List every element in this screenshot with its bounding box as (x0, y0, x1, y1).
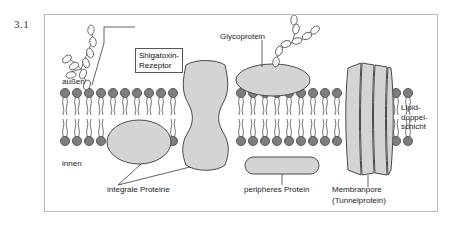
leader-integral-proteins (118, 164, 190, 185)
label-membrane-pore: Membranpore (332, 185, 382, 195)
label-peripheral-protein: peripheres Protein (244, 185, 309, 195)
diagram-frame: Shigatoxin- Rezeptor außen innen Glycopr… (44, 14, 438, 212)
integral-protein-ellipse (107, 120, 171, 164)
glycoprotein-sugar-chain (272, 15, 321, 67)
peripheral-protein-pill (245, 157, 319, 174)
leader-receptor (92, 27, 135, 85)
label-glycoprotein: Glycoprotein (220, 32, 265, 42)
shigatoxin-receptor-label: Shigatoxin- Rezeptor (135, 48, 183, 73)
label-integral-proteins: integrale Proteine (107, 185, 170, 195)
label-inside: innen (62, 159, 82, 169)
figure-container: 3.1 (0, 0, 449, 226)
label-lipid-bilayer: Lipid- doppel- schicht (401, 103, 428, 132)
label-membrane-pore-sub: (Tunnelprotein) (332, 196, 386, 206)
membrane-diagram (45, 15, 439, 213)
label-outside: außen (62, 77, 85, 87)
membrane-pore (346, 63, 394, 175)
integral-protein-hourglass (183, 61, 229, 171)
glycoprotein-ellipse (236, 64, 310, 96)
figure-number: 3.1 (14, 18, 29, 30)
